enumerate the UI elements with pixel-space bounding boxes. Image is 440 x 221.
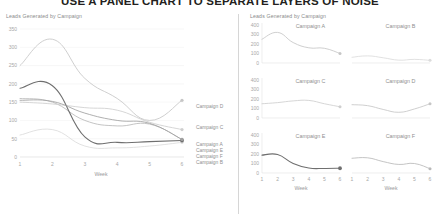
legend-label-campaign-d[interactable]: Campaign D	[196, 104, 224, 109]
panel-small-multiples: 0100200300400Campaign ACampaign B0100200…	[240, 11, 440, 213]
overview-line-chart: 050100150200250300350123456WeekCampaign …	[0, 11, 238, 211]
panel-x-axis-tick-label: 6	[339, 176, 342, 182]
panel-endpoint-marker	[338, 166, 342, 170]
panel-x-axis-tick-label: 3	[292, 176, 295, 182]
pane-divider	[238, 14, 239, 214]
panel-series-line-campaign-e	[262, 154, 340, 169]
y-axis-tick-label: 100	[9, 117, 18, 123]
series-endpoint-marker	[180, 99, 183, 102]
panel-y-axis-tick-label: 400	[251, 22, 260, 28]
panel-title-campaign-e: Campaign E	[296, 133, 326, 139]
x-axis-title: Week	[94, 171, 108, 177]
panel-x-axis-title: Week	[294, 185, 308, 191]
legend-label-campaign-e[interactable]: Campaign E	[196, 148, 224, 153]
panel-x-axis-title: Week	[384, 185, 398, 191]
series-endpoint-marker	[180, 138, 183, 141]
panel-y-axis-tick-label: 300	[251, 141, 260, 147]
slide-title: USE A PANEL CHART TO SEPARATE LAYERS OF …	[0, 0, 440, 7]
panel-series-line-campaign-b	[352, 56, 430, 60]
legend-label-campaign-f[interactable]: Campaign F	[196, 154, 223, 159]
panel-y-axis-tick-label: 300	[251, 86, 260, 92]
panel-x-axis-tick-label: 2	[276, 176, 279, 182]
x-axis-tick-label: 6	[181, 161, 184, 167]
panel-y-axis-tick-label: 400	[251, 77, 260, 83]
panel-title-campaign-a: Campaign A	[296, 23, 326, 29]
panel-series-line-campaign-c	[262, 100, 340, 107]
x-axis-tick-label: 1	[19, 161, 22, 167]
panel-y-axis-tick-label: 0	[256, 170, 259, 176]
panel-series-line-campaign-a	[262, 32, 340, 53]
panel-x-axis-tick-label: 5	[323, 176, 326, 182]
panel-y-axis-tick-label: 400	[251, 132, 260, 138]
series-line-campaign-f	[20, 100, 182, 140]
panel-y-axis-tick-label: 200	[251, 151, 260, 157]
y-axis-tick-label: 250	[9, 62, 18, 68]
panel-x-axis-tick-label: 6	[429, 176, 432, 182]
panel-y-axis-tick-label: 0	[256, 60, 259, 66]
panel-chart-pane: Leads Generated by Campaign 010020030040…	[240, 11, 440, 221]
x-axis-tick-label: 4	[116, 161, 119, 167]
x-axis-tick-label: 2	[51, 161, 54, 167]
panel-series-line-campaign-f	[352, 158, 430, 169]
panel-x-axis-tick-label: 4	[397, 176, 400, 182]
y-axis-tick-label: 350	[9, 26, 18, 32]
x-axis-tick-label: 3	[83, 161, 86, 167]
panel-title-campaign-f: Campaign F	[386, 133, 416, 139]
panel-x-axis-tick-label: 4	[307, 176, 310, 182]
panel-title-campaign-b: Campaign B	[386, 23, 416, 29]
series-line-campaign-c	[20, 102, 182, 129]
panel-endpoint-marker	[429, 167, 432, 170]
panel-y-axis-tick-label: 200	[251, 41, 260, 47]
panel-endpoint-marker	[429, 102, 432, 105]
legend-label-campaign-b[interactable]: Campaign B	[196, 160, 223, 165]
series-endpoint-marker	[180, 128, 183, 131]
y-axis-tick-label: 150	[9, 99, 18, 105]
panel-y-axis-tick-label: 0	[256, 115, 259, 121]
panel-y-axis-tick-label: 300	[251, 31, 260, 37]
panel-endpoint-marker	[429, 59, 432, 62]
panel-endpoint-marker	[339, 105, 342, 108]
y-axis-tick-label: 50	[11, 136, 17, 142]
panel-y-axis-tick-label: 200	[251, 96, 260, 102]
charts-container: Leads Generated by Campaign 050100150200…	[0, 11, 440, 221]
overview-chart-pane: Leads Generated by Campaign 050100150200…	[0, 11, 238, 221]
panel-x-axis-tick-label: 5	[413, 176, 416, 182]
legend-label-campaign-c[interactable]: Campaign C	[196, 125, 224, 130]
y-axis-tick-label: 0	[14, 154, 17, 160]
panel-x-axis-tick-label: 2	[366, 176, 369, 182]
y-axis-tick-label: 300	[9, 44, 18, 50]
panel-title-campaign-c: Campaign C	[295, 78, 325, 84]
legend-label-campaign-a[interactable]: Campaign A	[196, 142, 223, 147]
panel-endpoint-marker	[339, 52, 342, 55]
panel-series-line-campaign-d	[352, 104, 430, 113]
panel-x-axis-tick-label: 1	[351, 176, 354, 182]
panel-y-axis-tick-label: 100	[251, 105, 260, 111]
panel-title-campaign-d: Campaign D	[385, 78, 415, 84]
panel-x-axis-tick-label: 1	[261, 176, 264, 182]
y-axis-tick-label: 200	[9, 81, 18, 87]
panel-y-axis-tick-label: 100	[251, 50, 260, 56]
panel-x-axis-tick-label: 3	[382, 176, 385, 182]
panel-y-axis-tick-label: 100	[251, 160, 260, 166]
series-line-campaign-e	[20, 81, 182, 144]
x-axis-tick-label: 5	[148, 161, 151, 167]
